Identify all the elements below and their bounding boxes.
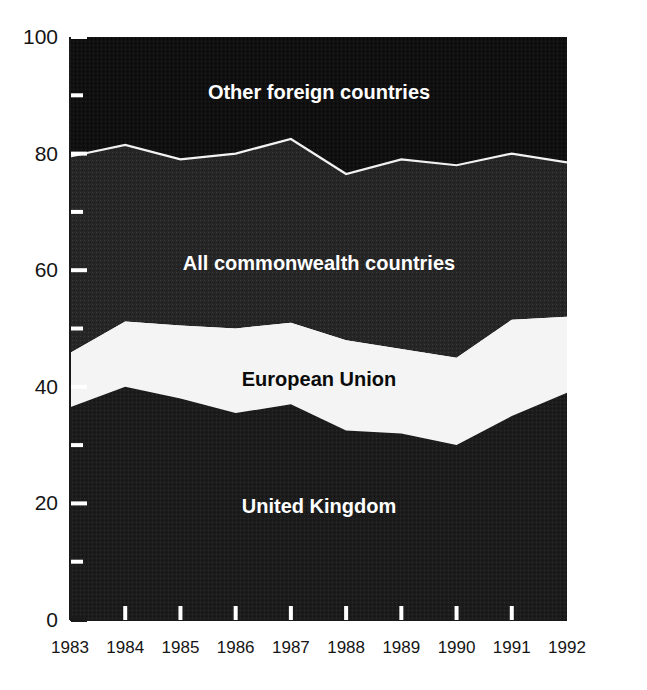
x-tick-label-1984: 1984 [106,638,144,657]
stacked-area-chart: 020406080100 198319841985198619871988198… [0,0,647,690]
x-tick-label-1983: 1983 [51,638,89,657]
series-label-other-foreign-countries: Other foreign countries [208,81,430,103]
x-tick-label-1987: 1987 [272,638,310,657]
x-tick-labels: 1983198419851986198719881989199019911992 [51,638,586,657]
x-tick-label-1986: 1986 [217,638,255,657]
x-tick-label-1988: 1988 [327,638,365,657]
y-tick-labels: 020406080100 [23,25,58,631]
y-tick-label-100: 100 [23,25,58,48]
x-tick-label-1985: 1985 [162,638,200,657]
y-tick-label-20: 20 [35,491,58,514]
plot-area [70,37,567,620]
y-tick-label-60: 60 [35,258,58,281]
series-label-all-commonwealth-countries: All commonwealth countries [183,252,455,274]
y-tick-label-0: 0 [46,608,58,631]
x-tick-label-1991: 1991 [493,638,531,657]
y-tick-label-80: 80 [35,142,58,165]
x-tick-label-1989: 1989 [382,638,420,657]
series-label-european-union: European Union [242,368,396,390]
chart-container: 020406080100 198319841985198619871988198… [0,0,647,690]
x-tick-label-1990: 1990 [438,638,476,657]
y-tick-label-40: 40 [35,375,58,398]
x-tick-label-1992: 1992 [548,638,586,657]
series-label-united-kingdom: United Kingdom [242,495,396,517]
